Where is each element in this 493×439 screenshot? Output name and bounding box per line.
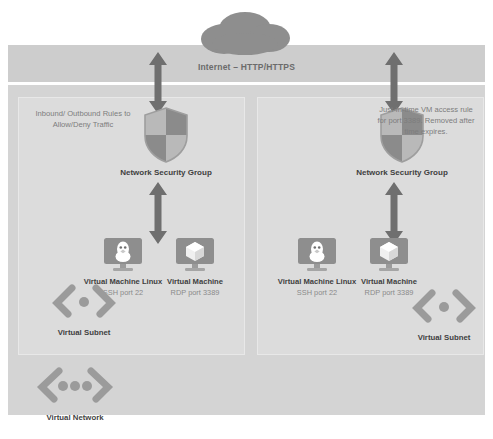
virtual-network-node: Virtual Network [20,366,130,422]
internet-label: Internet – HTTP/HTTPS [0,62,493,72]
virtual-network-label: Virtual Network [20,413,130,422]
vm-port: RDP port 3389 [150,288,240,298]
windows-cube-vm-icon [173,237,217,275]
virtual-subnet-icon [38,283,130,327]
shield-icon [142,106,190,164]
cloud-icon [190,11,300,55]
nsg-label-left: Network Security Group [66,168,266,177]
windows-cube-vm-icon [367,237,411,275]
note-left: Inbound/ Outbound Rules to Allow/Deny Tr… [33,108,133,130]
virtual-subnet-left: Virtual Subnet [38,283,130,337]
virtual-network-icon [20,366,130,412]
linux-penguin-vm-icon [101,237,145,275]
diagram-canvas: Internet – HTTP/HTTPS [0,0,493,439]
virtual-subnet-icon [398,288,490,332]
note-right: Just-In-time VM access rule for port 338… [374,104,478,137]
linux-penguin-vm-icon [295,237,339,275]
virtual-subnet-label: Virtual Subnet [38,328,130,337]
vm-title: Virtual Machine [150,277,240,287]
nsg-label-right: Network Security Group [302,168,493,177]
virtual-subnet-label: Virtual Subnet [398,333,490,342]
vm-windows-left: Virtual Machine RDP port 3389 [150,237,240,297]
vm-title: Virtual Machine [344,277,434,287]
virtual-subnet-right: Virtual Subnet [398,288,490,342]
